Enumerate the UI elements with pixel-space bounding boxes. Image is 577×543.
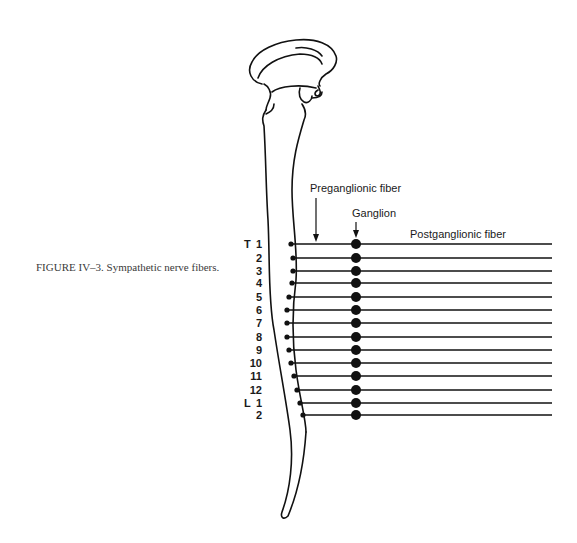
segment-prefix-label: L xyxy=(244,397,251,409)
nerve-row-12: 12 xyxy=(250,384,552,396)
brain-outline xyxy=(250,40,337,518)
preganglionic-label: Preganglionic fiber xyxy=(310,182,401,194)
neuron-origin-dot-icon xyxy=(290,255,295,260)
ganglion-node-icon xyxy=(351,292,361,302)
ganglion-node-icon xyxy=(351,345,361,355)
segment-number-label: 3 xyxy=(256,265,262,277)
nerve-row-2: 2 xyxy=(256,409,552,421)
ganglion-node-icon xyxy=(351,305,361,315)
nerve-row-8: 8 xyxy=(256,331,552,343)
segment-prefix-label: T xyxy=(244,238,251,250)
nerve-fiber-rows: 1T234567891011121L2 xyxy=(244,238,552,421)
neuron-origin-dot-icon xyxy=(284,320,289,325)
segment-number-label: 8 xyxy=(256,331,262,343)
neuron-origin-dot-icon xyxy=(286,294,291,299)
ganglion-node-icon xyxy=(351,253,361,263)
ganglion-node-icon xyxy=(351,358,361,368)
ganglion-node-icon xyxy=(351,371,361,381)
segment-number-label: 9 xyxy=(256,344,262,356)
segment-number-label: 2 xyxy=(256,409,262,421)
neuron-origin-dot-icon xyxy=(288,241,293,246)
ganglion-node-icon xyxy=(351,332,361,342)
preganglionic-arrow-icon xyxy=(313,198,319,242)
neuron-origin-dot-icon xyxy=(294,387,299,392)
nerve-row-3: 3 xyxy=(256,265,552,277)
ganglion-node-icon xyxy=(351,385,361,395)
nerve-row-6: 6 xyxy=(256,304,552,316)
nerve-row-9: 9 xyxy=(256,344,552,356)
segment-number-label: 11 xyxy=(250,370,262,382)
segment-number-label: 1 xyxy=(256,238,262,250)
neuron-origin-dot-icon xyxy=(289,280,294,285)
nerve-row-2: 2 xyxy=(256,252,552,264)
segment-number-label: 7 xyxy=(256,317,262,329)
segment-number-label: 4 xyxy=(256,277,263,289)
segment-number-label: 6 xyxy=(256,304,262,316)
segment-number-label: 10 xyxy=(250,357,262,369)
segment-number-label: 12 xyxy=(250,384,262,396)
sympathetic-nerve-diagram: Preganglionic fiber Ganglion Postganglio… xyxy=(0,0,577,543)
ganglion-node-icon xyxy=(351,410,361,420)
ganglion-arrow-icon xyxy=(353,222,359,238)
segment-number-label: 5 xyxy=(256,291,262,303)
neuron-origin-dot-icon xyxy=(297,400,302,405)
ganglion-node-icon xyxy=(351,398,361,408)
neuron-origin-dot-icon xyxy=(284,334,289,339)
ganglion-node-icon xyxy=(351,278,361,288)
neuron-origin-dot-icon xyxy=(300,412,305,417)
nerve-row-l1: 1L xyxy=(244,397,552,409)
segment-number-label: 1 xyxy=(256,397,262,409)
nerve-row-5: 5 xyxy=(256,291,552,303)
ganglion-node-icon xyxy=(351,266,361,276)
neuron-origin-dot-icon xyxy=(288,360,293,365)
neuron-origin-dot-icon xyxy=(291,373,296,378)
postganglionic-label: Postganglionic fiber xyxy=(410,228,506,240)
nerve-row-7: 7 xyxy=(256,317,552,329)
neuron-origin-dot-icon xyxy=(286,347,291,352)
nerve-row-4: 4 xyxy=(256,277,552,289)
neuron-origin-dot-icon xyxy=(290,268,295,273)
segment-number-label: 2 xyxy=(256,252,262,264)
ganglion-node-icon xyxy=(351,318,361,328)
ganglion-label: Ganglion xyxy=(352,207,396,219)
ganglion-node-icon xyxy=(351,239,361,249)
neuron-origin-dot-icon xyxy=(284,307,289,312)
